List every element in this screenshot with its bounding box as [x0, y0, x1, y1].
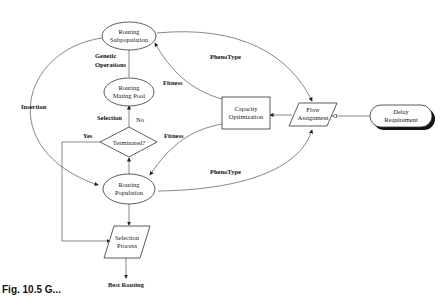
node-capacity-optimization: Capacity Optimization — [222, 97, 270, 129]
label-phenotype-top: PhenoType — [210, 53, 241, 60]
svg-text:Requirement: Requirement — [384, 116, 418, 123]
flowchart-diagram: Routing Subpopulation Routing Mating Poo… — [0, 0, 445, 299]
node-terminated: Terminated? — [100, 127, 157, 157]
svg-text:Capacity: Capacity — [234, 105, 258, 112]
figure-caption: Fig. 10.5 G... — [2, 284, 61, 295]
label-fitness-bottom: Fitness — [164, 132, 184, 139]
label-insertion: Insertion — [21, 103, 47, 110]
node-delay-requirement: Delay Requirement — [370, 105, 435, 130]
node-routing-population: Routing Population — [103, 174, 155, 204]
svg-text:Optimization: Optimization — [229, 113, 264, 120]
svg-text:Terminated?: Terminated? — [113, 139, 146, 146]
svg-text:Process: Process — [117, 242, 137, 249]
label-yes: Yes — [83, 132, 93, 139]
edge-phenotype-top — [157, 32, 312, 101]
svg-text:Routing: Routing — [119, 84, 141, 91]
svg-text:Delay: Delay — [393, 108, 409, 115]
label-no: No — [136, 116, 144, 123]
svg-text:Assignment: Assignment — [297, 114, 328, 121]
svg-text:Selection: Selection — [115, 234, 140, 241]
label-phenotype-bottom: PhenoType — [210, 168, 241, 175]
node-flow-assignment: Flow Assignment — [289, 103, 337, 126]
node-selection-process: Selection Process — [104, 226, 150, 258]
svg-text:Flow: Flow — [306, 106, 320, 113]
label-operations: Operations — [95, 61, 127, 68]
svg-text:Mating Pool: Mating Pool — [113, 92, 146, 99]
edge-fitness-top — [155, 43, 222, 99]
svg-text:Best Routing: Best Routing — [108, 281, 145, 288]
label-fitness-top: Fitness — [163, 79, 183, 86]
node-routing-mating-pool: Routing Mating Pool — [104, 78, 154, 106]
svg-text:Subpopulation: Subpopulation — [110, 36, 149, 43]
svg-text:Routing: Routing — [119, 28, 141, 35]
edge-yes — [62, 142, 110, 241]
svg-text:Population: Population — [115, 189, 144, 196]
node-best-routing: Best Routing — [108, 281, 145, 288]
label-selection: Selection — [97, 114, 122, 121]
edge-phenotype-bottom — [158, 130, 312, 191]
node-routing-subpopulation: Routing Subpopulation — [102, 22, 156, 50]
svg-text:Routing: Routing — [119, 181, 141, 188]
label-genetic: Genetic — [95, 52, 116, 59]
edge-insertion — [30, 38, 102, 185]
